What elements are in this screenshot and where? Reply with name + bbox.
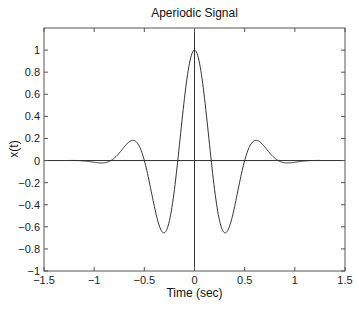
x-tick-label: −1 — [88, 274, 101, 286]
y-tick-label: −0.6 — [18, 221, 40, 233]
plot-area — [44, 28, 345, 271]
x-tick-label: 0.5 — [237, 274, 252, 286]
y-tick-label: −1 — [27, 265, 40, 277]
y-tick-label: 1 — [34, 44, 40, 56]
x-tick-label: −0.5 — [133, 274, 155, 286]
chart-title: Aperiodic Signal — [151, 6, 238, 20]
y-tick-label: 0 — [34, 155, 40, 167]
y-axis-label: x(t) — [7, 140, 21, 157]
line-chart: Aperiodic Signal −1.5−1−0.500.511.5 −1−0… — [0, 0, 359, 309]
y-tick-label: 0.4 — [25, 110, 40, 122]
x-tick-label: 1 — [292, 274, 298, 286]
x-tick-label: 0 — [191, 274, 197, 286]
x-axis-ticks: −1.5−1−0.500.511.5 — [33, 28, 353, 286]
y-tick-label: 0.2 — [25, 132, 40, 144]
y-tick-label: 0.6 — [25, 88, 40, 100]
y-tick-label: −0.4 — [18, 199, 40, 211]
y-tick-label: −0.8 — [18, 243, 40, 255]
x-tick-label: 1.5 — [337, 274, 352, 286]
x-axis-label: Time (sec) — [166, 286, 222, 300]
y-tick-label: 0.8 — [25, 66, 40, 78]
y-tick-label: −0.2 — [18, 177, 40, 189]
